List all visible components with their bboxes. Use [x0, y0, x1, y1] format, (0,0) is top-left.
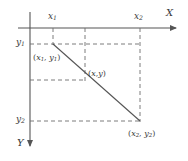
line-segment: [53, 44, 140, 121]
point-label-p2: (x2, y2): [128, 130, 155, 139]
x-axis-label: X: [166, 8, 173, 18]
tick-label-y1-subscript: 1: [21, 40, 25, 47]
point-label-p1-close: ): [57, 53, 60, 62]
point-label-p2-close: ): [152, 129, 155, 138]
tick-label-x1: x1: [48, 12, 57, 21]
point-label-pm-close: ): [103, 69, 106, 78]
coordinate-diagram: X Y x1 x2 y1 y2 (x1, y1) (x,y) (x2, y2): [0, 0, 188, 161]
tick-label-y1: y1: [16, 38, 25, 47]
point-label-pm: (x,y): [88, 70, 106, 78]
point-label-p1: (x1, y1): [33, 54, 60, 63]
diagram-canvas: [0, 0, 188, 161]
tick-label-x2: x2: [134, 12, 143, 21]
tick-label-x1-subscript: 1: [53, 14, 57, 21]
tick-label-y2: y2: [16, 115, 25, 124]
y-axis-label: Y: [17, 138, 24, 148]
tick-label-y2-subscript: 2: [21, 117, 25, 124]
tick-label-x2-subscript: 2: [139, 14, 143, 21]
